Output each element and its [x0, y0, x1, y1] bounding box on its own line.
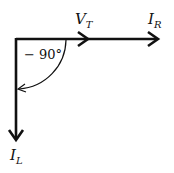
- label-i-l: IL: [9, 146, 23, 166]
- phasor-diagram: VT IR IL − 90°: [0, 0, 174, 173]
- label-v-t: VT: [75, 10, 94, 30]
- angle-label: − 90°: [24, 47, 62, 62]
- label-i-r: IR: [147, 10, 162, 30]
